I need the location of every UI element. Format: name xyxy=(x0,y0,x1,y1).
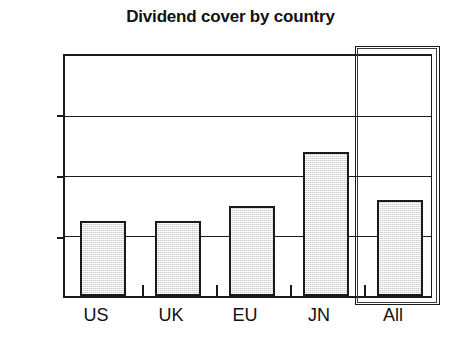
chart-title: Dividend cover by country xyxy=(0,7,461,27)
x-axis-label-uk: UK xyxy=(136,305,206,325)
x-axis-label-us: US xyxy=(61,305,131,325)
x-axis-minor-tick-4 xyxy=(364,285,366,296)
gridline-4 xyxy=(65,176,431,177)
chart-figure: Dividend cover by country 0.0 2.0 4.0 6.… xyxy=(0,0,461,348)
bar-us[interactable] xyxy=(80,221,126,296)
bar-jn[interactable] xyxy=(303,152,349,296)
x-axis-minor-tick-1 xyxy=(142,285,144,296)
x-axis-minor-tick-3 xyxy=(290,285,292,296)
bar-all[interactable] xyxy=(377,200,423,296)
x-axis-label-jn: JN xyxy=(284,305,354,325)
plot-area xyxy=(63,54,432,298)
bar-uk[interactable] xyxy=(155,221,201,296)
x-axis-minor-tick-2 xyxy=(216,285,218,296)
gridline-6 xyxy=(65,116,431,117)
bar-eu[interactable] xyxy=(229,206,275,296)
x-axis-label-all: All xyxy=(358,305,428,325)
x-axis-label-eu: EU xyxy=(210,305,280,325)
